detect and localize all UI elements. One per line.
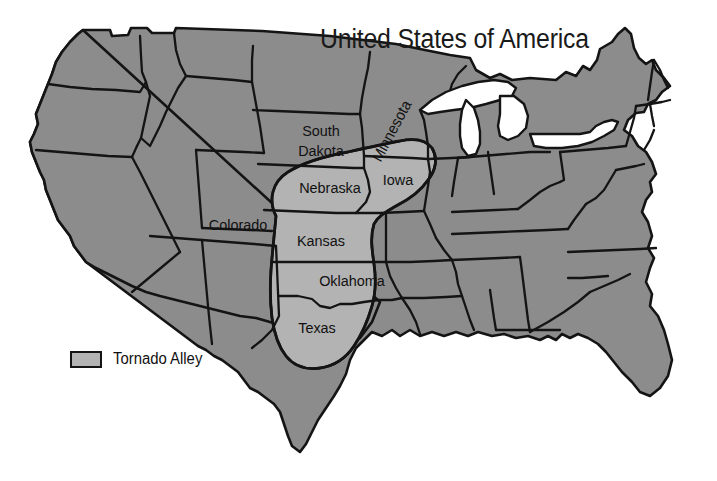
map-svg bbox=[0, 0, 717, 481]
border-mt-nd-sd bbox=[252, 46, 253, 82]
border-nj-ny bbox=[644, 130, 654, 150]
map-title: United States of America bbox=[320, 24, 589, 55]
border-ct-ny bbox=[650, 104, 654, 126]
legend-label-tornado-alley: Tornado Alley bbox=[113, 350, 202, 368]
us-map-figure: United States of America South Dakota Mi… bbox=[0, 0, 717, 481]
legend: Tornado Alley bbox=[70, 350, 209, 368]
legend-swatch-tornado-alley bbox=[70, 351, 102, 368]
